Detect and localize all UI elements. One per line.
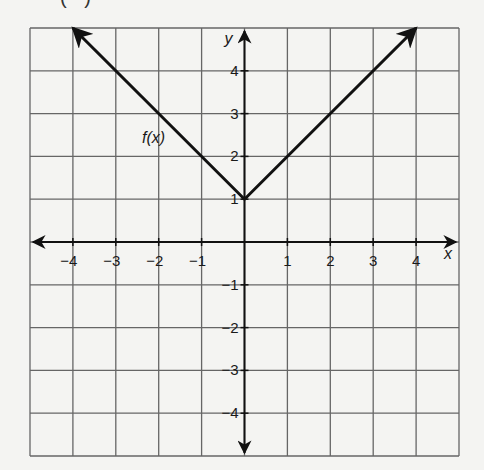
svg-text:−2: −2 [146, 252, 163, 269]
y-axis-label: y [224, 30, 234, 47]
axes [33, 31, 456, 453]
function-label: f(x) [142, 129, 165, 146]
svg-text:−1: −1 [221, 276, 238, 293]
svg-text:4: 4 [230, 62, 238, 79]
svg-text:1: 1 [283, 252, 291, 269]
svg-text:−1: −1 [189, 252, 206, 269]
x-axis-label: x [443, 245, 453, 262]
svg-text:3: 3 [230, 105, 238, 122]
svg-text:3: 3 [369, 252, 377, 269]
svg-text:−3: −3 [221, 361, 238, 378]
svg-text:−4: −4 [221, 404, 238, 421]
svg-text:2: 2 [230, 147, 238, 164]
coordinate-plane: −4−3−2−112344321−1−2−3−4 x y f(x) [0, 0, 484, 470]
svg-text:−2: −2 [221, 319, 238, 336]
svg-text:−3: −3 [103, 252, 120, 269]
svg-text:2: 2 [326, 252, 334, 269]
svg-text:−4: −4 [60, 252, 77, 269]
svg-text:4: 4 [412, 252, 420, 269]
